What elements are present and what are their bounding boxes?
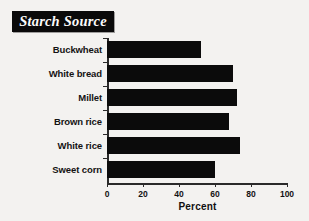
x-axis-tick-label: 40 <box>166 189 192 199</box>
bar-buckwheat <box>107 41 201 58</box>
x-axis-tick <box>107 183 108 187</box>
category-label: White bread <box>49 65 102 82</box>
x-axis-tick-label: 60 <box>202 189 228 199</box>
y-axis-tick <box>103 110 107 111</box>
category-label: Brown rice <box>54 113 102 130</box>
x-axis-tick <box>287 183 288 187</box>
bar-white-rice <box>107 137 240 154</box>
plot-area: Buckwheat White bread Millet Brown rice … <box>107 38 287 183</box>
y-axis-tick <box>103 134 107 135</box>
y-axis-tick <box>103 62 107 63</box>
x-axis-line <box>107 183 288 185</box>
y-axis-tick <box>103 86 107 87</box>
bar-white-bread <box>107 65 233 82</box>
category-label: White rice <box>58 137 102 154</box>
category-label: Millet <box>78 89 102 106</box>
bar-sweet-corn <box>107 161 215 178</box>
x-axis-tick <box>251 183 252 187</box>
category-label: Buckwheat <box>53 41 102 58</box>
x-axis-tick <box>215 183 216 187</box>
bar-millet <box>107 89 237 106</box>
x-axis-tick-label: 80 <box>238 189 264 199</box>
x-axis-tick-label: 100 <box>274 189 300 199</box>
x-axis-tick-label: 20 <box>130 189 156 199</box>
chart-title-label: Starch Source <box>12 11 114 32</box>
bar-brown-rice <box>107 113 229 130</box>
y-axis-tick <box>103 38 107 39</box>
y-axis-tick <box>103 158 107 159</box>
x-axis-title: Percent <box>107 201 288 212</box>
chart-title-banner: Starch Source <box>12 11 114 32</box>
chart-figure: Starch Source Buckwheat White bread Mill… <box>0 0 309 221</box>
category-label: Sweet corn <box>52 161 102 178</box>
x-axis-tick <box>143 183 144 187</box>
x-axis-tick-label: 0 <box>94 189 120 199</box>
x-axis-tick <box>179 183 180 187</box>
